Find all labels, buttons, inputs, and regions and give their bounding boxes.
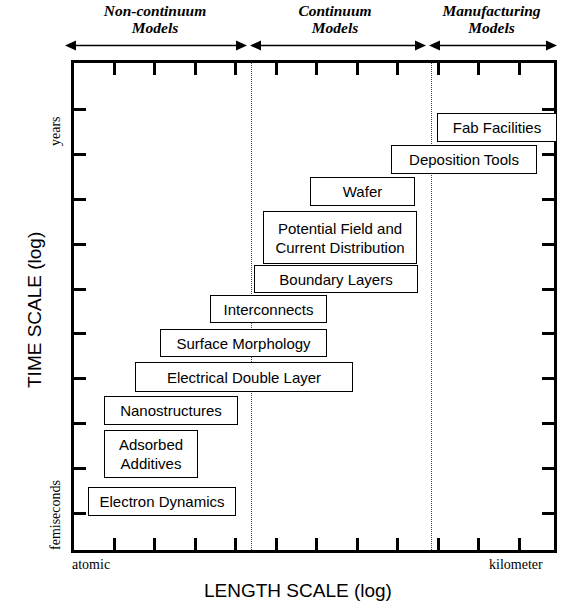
x-tick-top [153, 63, 156, 75]
y-tick-left [74, 512, 86, 515]
multiscale-modeling-figure: Non-continuum Models Continuum Models Ma… [0, 0, 563, 609]
y-tick-left [74, 467, 86, 470]
scale-box-label: Potential Field and [278, 219, 402, 238]
regime-label-line2: Models [250, 19, 420, 36]
regime-arrow-continuum [250, 39, 426, 52]
scale-box-label: Interconnects [223, 301, 313, 318]
y-tick-left [74, 243, 86, 246]
scale-box-surface-morphology[interactable]: Surface Morphology [160, 329, 327, 357]
scale-box-label: Surface Morphology [176, 335, 310, 352]
y-tick-left [74, 422, 86, 425]
scale-box-label: Deposition Tools [409, 151, 519, 168]
scale-box-label-line2: Current Distribution [275, 238, 404, 257]
regime-label-non-continuum: Non-continuum Models [67, 2, 243, 36]
y-tick-left [74, 198, 86, 201]
x-tick-top [396, 63, 399, 75]
y-tick-left [74, 288, 86, 291]
regime-label-line1: Non-continuum [67, 2, 243, 19]
regime-label-continuum: Continuum Models [250, 2, 420, 36]
regime-arrow-manufacturing [429, 39, 557, 52]
scale-box-label: Nanostructures [120, 402, 222, 419]
scale-box-adsorbed-additives[interactable]: Adsorbed Additives [104, 430, 198, 478]
x-tick-top [518, 63, 521, 75]
x-tick-bottom [194, 538, 197, 550]
y-axis-min-label: femiseconds [48, 480, 64, 550]
regime-arrow-non-continuum [65, 39, 247, 52]
x-tick-bottom [153, 538, 156, 550]
y-tick-right [542, 243, 554, 246]
scale-box-nanostructures[interactable]: Nanostructures [104, 396, 238, 425]
y-axis-max-label: years [48, 116, 64, 146]
x-axis-title: LENGTH SCALE (log) [204, 580, 392, 602]
y-tick-left [74, 332, 86, 335]
regime-label-line2: Models [67, 19, 243, 36]
y-tick-right [542, 377, 554, 380]
y-tick-right [542, 288, 554, 291]
scale-box-label: Boundary Layers [279, 271, 392, 288]
scale-box-electrical-double-layer[interactable]: Electrical Double Layer [135, 362, 353, 392]
y-tick-right [542, 153, 554, 156]
scale-box-label: Electron Dynamics [99, 493, 224, 510]
scale-box-electron-dynamics[interactable]: Electron Dynamics [88, 487, 236, 516]
regime-divider-continuum-manufacturing [431, 63, 432, 550]
y-tick-right [542, 332, 554, 335]
scale-box-interconnects[interactable]: Interconnects [210, 295, 327, 323]
x-axis-max-label: kilometer [489, 557, 543, 573]
x-tick-bottom [477, 538, 480, 550]
x-tick-bottom [315, 538, 318, 550]
x-tick-top [437, 63, 440, 75]
x-tick-bottom [518, 538, 521, 550]
scale-box-label: Fab Facilities [453, 119, 541, 136]
x-tick-top [234, 63, 237, 75]
x-tick-bottom [234, 538, 237, 550]
y-axis-title: TIME SCALE (log) [24, 232, 46, 388]
x-tick-bottom [437, 538, 440, 550]
regime-label-line2: Models [424, 19, 559, 36]
x-axis-min-label: atomic [72, 557, 110, 573]
x-tick-bottom [396, 538, 399, 550]
scale-box-deposition-tools[interactable]: Deposition Tools [391, 145, 537, 174]
scale-box-boundary-layers[interactable]: Boundary Layers [254, 265, 418, 293]
scale-box-fab-facilities[interactable]: Fab Facilities [437, 113, 557, 142]
scale-box-label: Wafer [343, 183, 382, 200]
scale-box-wafer[interactable]: Wafer [310, 177, 415, 206]
scale-box-label: Adsorbed [119, 435, 183, 454]
x-tick-bottom [275, 538, 278, 550]
scale-box-potential-field[interactable]: Potential Field and Current Distribution [263, 211, 417, 264]
y-tick-right [542, 512, 554, 515]
x-tick-bottom [113, 538, 116, 550]
x-tick-top [194, 63, 197, 75]
regime-label-line1: Continuum [250, 2, 420, 19]
y-tick-left [74, 108, 86, 111]
x-tick-top [477, 63, 480, 75]
y-tick-right [542, 198, 554, 201]
scale-box-label-line2: Additives [121, 454, 182, 473]
x-tick-top [356, 63, 359, 75]
scale-box-label: Electrical Double Layer [167, 369, 321, 386]
regime-label-line1: Manufacturing [424, 2, 559, 19]
x-tick-bottom [356, 538, 359, 550]
x-tick-top [275, 63, 278, 75]
x-tick-top [113, 63, 116, 75]
y-tick-right [542, 467, 554, 470]
x-tick-top [315, 63, 318, 75]
y-tick-right [542, 422, 554, 425]
y-tick-right [542, 108, 554, 111]
y-tick-left [74, 377, 86, 380]
y-tick-left [74, 153, 86, 156]
regime-label-manufacturing: Manufacturing Models [424, 2, 559, 36]
